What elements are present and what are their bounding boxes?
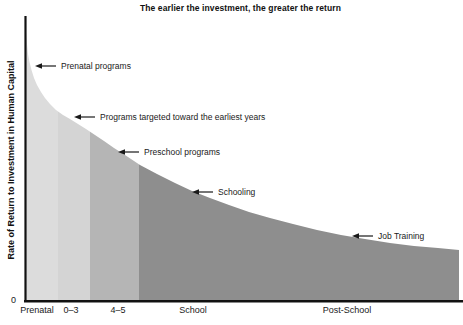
band-post-school bbox=[252, 10, 459, 305]
x-label-4-5: 4–5 bbox=[110, 305, 125, 315]
annotation-programs-targeted-toward-the-earliest-years: Programs targeted toward the earliest ye… bbox=[100, 112, 265, 123]
x-label-0-3: 0–3 bbox=[63, 305, 78, 315]
annotation-job-training: Job Training bbox=[378, 231, 424, 242]
x-label-school: School bbox=[179, 305, 207, 315]
x-label-prenatal: Prenatal bbox=[20, 305, 54, 315]
left-arrowhead-icon bbox=[74, 114, 81, 120]
heckman-curve-chart: The earlier the investment, the greater … bbox=[0, 0, 463, 325]
annotation-schooling: Schooling bbox=[218, 187, 255, 198]
band-prenatal bbox=[25, 10, 58, 305]
annotation-prenatal-programs: Prenatal programs bbox=[61, 61, 131, 72]
chart-plot-area bbox=[0, 0, 463, 325]
age-segment-bands bbox=[25, 10, 459, 305]
annotation-preschool-programs: Preschool programs bbox=[144, 147, 220, 158]
left-arrowhead-icon bbox=[35, 63, 42, 69]
band-0-3 bbox=[58, 10, 90, 305]
x-label-post-school: Post-School bbox=[323, 305, 372, 315]
band-4-5 bbox=[90, 10, 139, 305]
band-school bbox=[139, 10, 252, 305]
